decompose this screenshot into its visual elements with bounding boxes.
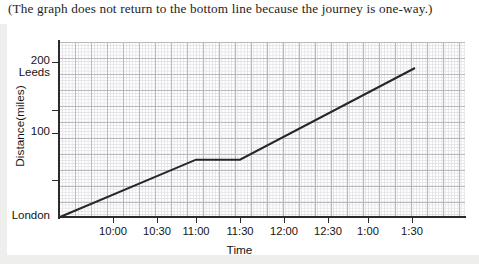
journey-polyline [60, 68, 415, 217]
journey-line-series [0, 24, 479, 264]
figure-caption: (The graph does not return to the bottom… [8, 1, 476, 17]
distance-time-graph: 200 Leeds 100 London Distance(miles) 10:… [0, 24, 479, 264]
